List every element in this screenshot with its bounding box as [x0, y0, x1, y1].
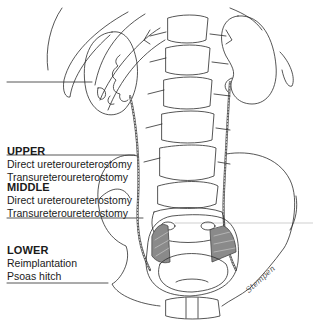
- level-lower-item-2: Psoas hitch: [7, 270, 77, 283]
- psoas-muscle-right: [152, 224, 170, 262]
- level-middle-item-1: Direct ureteroureterostomy: [7, 194, 132, 207]
- level-upper-title: UPPER: [7, 145, 132, 158]
- level-middle-title: MIDDLE: [7, 181, 132, 194]
- level-upper-item-1: Direct ureteroureterostomy: [7, 158, 132, 171]
- level-lower-title: LOWER: [7, 244, 77, 257]
- level-middle-item-2: Transureteroureterostomy: [7, 207, 132, 220]
- level-upper: UPPER Direct ureteroureterostomy Transur…: [7, 145, 132, 183]
- level-middle: MIDDLE Direct ureteroureterostomy Transu…: [7, 181, 132, 219]
- right-ureter: [130, 96, 150, 270]
- left-kidney: [222, 16, 294, 104]
- lumbar-spine: [144, 15, 232, 209]
- level-lower: LOWER Reimplantation Psoas hitch: [7, 244, 77, 282]
- level-lower-item-1: Reimplantation: [7, 257, 77, 270]
